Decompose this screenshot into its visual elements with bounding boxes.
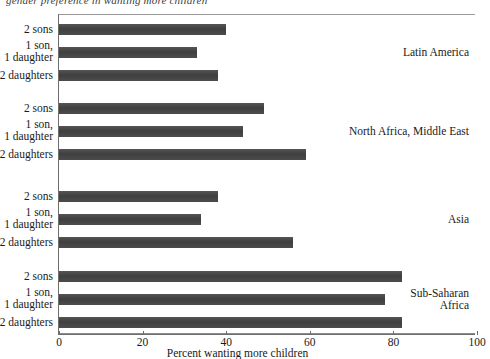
category-label: 1 son,1 daughter [0, 287, 53, 310]
category-label: 2 sons [0, 23, 53, 35]
category-label-line: 1 son, [0, 119, 53, 131]
category-label: 2 sons [0, 102, 53, 114]
bar [59, 24, 226, 35]
category-label-line: 2 sons [0, 23, 53, 35]
category-label-line: 1 daughter [0, 131, 53, 143]
category-label-line: 2 daughters [0, 148, 53, 160]
bar [59, 294, 385, 305]
category-label: 1 son,1 daughter [0, 207, 53, 230]
category-label-line: 1 son, [0, 207, 53, 219]
category-label-line: 1 daughter [0, 299, 53, 311]
bar [59, 103, 264, 114]
bar [59, 149, 306, 160]
category-label-line: 1 son, [0, 287, 53, 299]
bar [59, 237, 293, 248]
category-label: 2 daughters [0, 236, 53, 248]
x-axis-tick [59, 331, 60, 335]
x-axis-tick [393, 331, 394, 335]
category-label-line: 2 sons [0, 102, 53, 114]
region-label: North Africa, Middle East [349, 125, 469, 138]
category-label: 1 son,1 daughter [0, 40, 53, 63]
x-axis-tick [477, 331, 478, 335]
category-label-line: 1 daughter [0, 52, 53, 64]
bar [59, 191, 218, 202]
bar [59, 47, 197, 58]
region-label: Asia [448, 213, 469, 226]
category-label: 1 son,1 daughter [0, 119, 53, 142]
region-label-line: Africa [410, 299, 469, 312]
x-axis-title: Percent wanting more children [0, 347, 475, 359]
category-label-line: 2 daughters [0, 236, 53, 248]
category-label-line: 1 daughter [0, 219, 53, 231]
x-axis-tick [143, 331, 144, 335]
category-label-line: 2 daughters [0, 69, 53, 81]
category-label: 2 daughters [0, 316, 53, 328]
bar [59, 126, 243, 137]
region-label-line: North Africa, Middle East [349, 125, 469, 138]
x-axis-tick [226, 331, 227, 335]
region-label-line: Asia [448, 213, 469, 226]
category-label: 2 sons [0, 270, 53, 282]
category-label-line: 2 daughters [0, 316, 53, 328]
region-label: Sub-SaharanAfrica [410, 287, 469, 312]
x-axis-tick [310, 331, 311, 335]
category-label-line: 1 son, [0, 40, 53, 52]
bar [59, 70, 218, 81]
category-label-line: 2 sons [0, 270, 53, 282]
category-label: 2 sons [0, 190, 53, 202]
bar [59, 271, 402, 282]
region-label-line: Latin America [403, 46, 469, 59]
category-label: 2 daughters [0, 148, 53, 160]
bar [59, 214, 201, 225]
region-label-line: Sub-Saharan [410, 287, 469, 300]
region-label: Latin America [403, 46, 469, 59]
category-label-line: 2 sons [0, 190, 53, 202]
category-label: 2 daughters [0, 69, 53, 81]
bar [59, 317, 402, 328]
